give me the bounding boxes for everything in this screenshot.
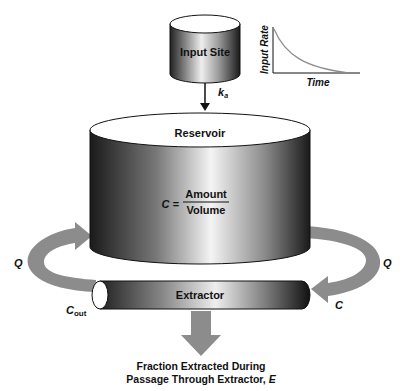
input-site-cylinder: Input Site [170, 15, 240, 83]
input-site-label: Input Site [180, 46, 230, 58]
inlet-concentration-label: C [335, 299, 344, 311]
absorption-arrow [200, 83, 210, 111]
flow-left-label: Q [14, 257, 23, 269]
reservoir-cylinder: Reservoir C = Amount Volume [90, 113, 310, 264]
output-caption-line2: Passage Through Extractor, E [126, 373, 276, 385]
equation-numerator: Amount [185, 188, 227, 200]
pharmacokinetic-diagram: Input Site ka Input Rate Time Reservoir … [0, 0, 404, 391]
inset-ylabel: Input Rate [259, 25, 270, 74]
extractor-tube: Extractor [92, 281, 310, 309]
right-supply-arrow [305, 226, 380, 303]
outlet-concentration-label: Cout [66, 304, 87, 318]
extractor-label: Extractor [176, 289, 225, 301]
equation-denominator: Volume [187, 204, 226, 216]
rate-constant-label: ka [218, 86, 228, 99]
input-rate-inset-chart: Input Rate Time [259, 25, 360, 88]
inset-xlabel: Time [306, 77, 330, 88]
concentration-lhs: C = [162, 198, 180, 210]
flow-right-label: Q [383, 257, 392, 269]
output-caption-line1: Fraction Extracted During [137, 360, 266, 372]
left-return-arrow [28, 222, 96, 292]
extraction-arrow [181, 311, 221, 356]
reservoir-label: Reservoir [175, 127, 226, 139]
